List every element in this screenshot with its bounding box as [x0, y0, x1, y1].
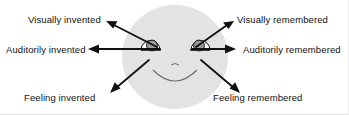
- label-auditorily-remembered: Auditorily remembered: [243, 44, 341, 55]
- label-visually-remembered: Visually remembered: [237, 14, 328, 25]
- eye-accessing-cues-figure: Visually invented Visually remembered Au…: [0, 0, 349, 115]
- label-visually-invented: Visually invented: [28, 14, 101, 25]
- label-feeling-remembered: Feeling remembered: [213, 92, 302, 103]
- label-auditorily-invented: Auditorily invented: [6, 44, 86, 55]
- label-feeling-invented: Feeling invented: [24, 92, 95, 103]
